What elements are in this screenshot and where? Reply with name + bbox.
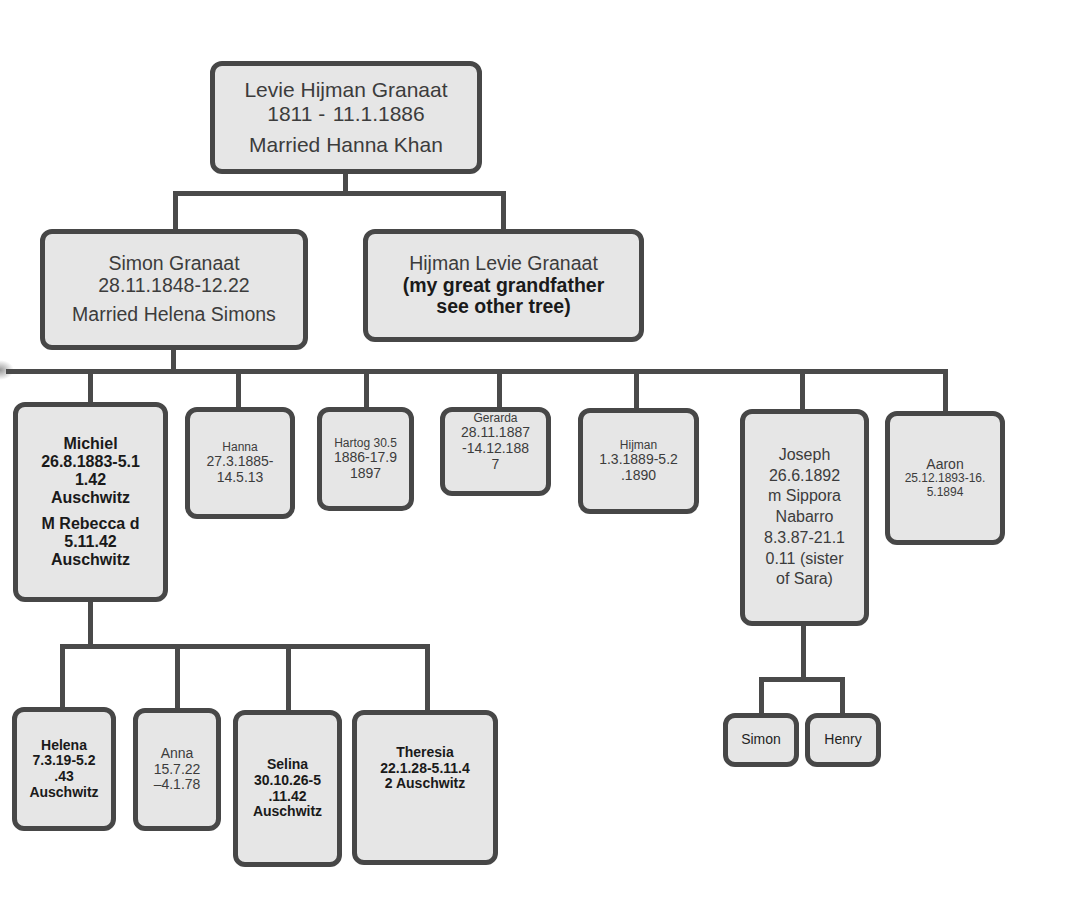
person-box-anna: Anna 15.7.22 –4.1.78 xyxy=(133,708,221,831)
person-box-henry: Henry xyxy=(805,713,881,767)
connector xyxy=(88,600,93,648)
person-name: Gerarda xyxy=(473,412,517,425)
person-box-joseph: Joseph 26.6.1892 m Sippora Nabarro 8.3.8… xyxy=(740,409,869,626)
connector xyxy=(943,369,948,415)
person-box-hartog: Hartog 30.5 1886-17.9 1897 xyxy=(317,407,414,511)
person-name: Hijman xyxy=(620,439,657,452)
person-dates: 1811 - 11.1.1886 xyxy=(267,102,424,126)
connector xyxy=(6,369,948,374)
person-box-simon-granaat: Simon Granaat 28.11.1848-12.22 Married H… xyxy=(40,229,308,350)
family-tree-diagram: Levie Hijman Granaat 1811 - 11.1.1886 Ma… xyxy=(0,0,1067,912)
person-line: Auschwitz xyxy=(29,785,98,801)
person-line: 5.1894 xyxy=(927,486,964,499)
person-name: Hijman Levie Granaat xyxy=(409,253,598,275)
person-line: Auschwitz xyxy=(51,489,130,507)
person-line: .11.42 xyxy=(268,789,306,805)
person-name: Joseph xyxy=(779,445,831,466)
person-line: 0.11 (sister xyxy=(766,549,844,570)
connector xyxy=(840,677,845,717)
connector xyxy=(497,369,502,411)
connector xyxy=(759,677,764,717)
person-dates: 28.11.1848-12.22 xyxy=(98,275,249,297)
person-spouse: Married Helena Simons xyxy=(72,304,276,326)
person-name: Helena xyxy=(41,738,87,754)
connector xyxy=(364,369,369,411)
person-line: 27.3.1885- xyxy=(207,454,274,470)
connector xyxy=(634,369,639,412)
person-spouse: Married Hanna Khan xyxy=(249,133,443,157)
person-box-hijman: Hijman 1.3.1889-5.2 .1890 xyxy=(578,408,699,514)
connector xyxy=(425,644,430,714)
person-line: Auschwitz xyxy=(253,804,322,820)
connector xyxy=(173,191,506,196)
person-spouse: Auschwitz xyxy=(51,551,130,569)
person-line: 14.5.13 xyxy=(217,470,264,486)
person-line: m Sippora xyxy=(768,486,841,507)
person-box-helena: Helena 7.3.19-5.2 .43 Auschwitz xyxy=(12,707,116,831)
person-box-theresia: Theresia 22.1.28-5.11.4 2 Auschwitz xyxy=(352,710,498,865)
person-line: -14.12.188 xyxy=(462,441,529,457)
person-line: 8.3.87-21.1 xyxy=(764,528,845,549)
connector xyxy=(501,191,506,233)
person-spouse: M Rebecca d xyxy=(42,515,140,533)
person-name: Henry xyxy=(824,732,861,748)
person-name: Simon Granaat xyxy=(108,253,239,275)
connector xyxy=(175,644,180,712)
person-box-aaron: Aaron 25.12.1893-16. 5.1894 xyxy=(885,411,1005,545)
person-note: see other tree) xyxy=(436,296,570,318)
person-line: 1.3.1889-5.2 xyxy=(599,452,678,468)
person-line: 15.7.22 xyxy=(154,762,201,778)
person-box-gerarda: Gerarda 28.11.1887 -14.12.188 7 xyxy=(440,407,551,496)
connector xyxy=(759,677,845,682)
person-box-levie-hijman-granaat: Levie Hijman Granaat 1811 - 11.1.1886 Ma… xyxy=(210,61,482,174)
person-line: Nabarro xyxy=(776,507,834,528)
person-line: 1.42 xyxy=(75,471,106,489)
person-spouse: 5.11.42 xyxy=(64,533,117,551)
person-name: Theresia xyxy=(396,745,454,761)
person-box-hijman-levie-granaat: Hijman Levie Granaat (my great grandfath… xyxy=(363,229,644,342)
person-box-hanna: Hanna 27.3.1885- 14.5.13 xyxy=(185,407,295,519)
person-line: 26.8.1883-5.1 xyxy=(41,453,140,471)
person-name: Aaron xyxy=(926,457,963,473)
person-name: Hanna xyxy=(222,441,257,454)
person-line: 1897 xyxy=(350,466,381,482)
person-line: 26.6.1892 xyxy=(769,466,840,487)
connector xyxy=(60,644,430,649)
person-line: 2 Auschwitz xyxy=(385,776,465,792)
person-line: 30.10.26-5 xyxy=(254,773,321,789)
person-box-michiel: Michiel 26.8.1883-5.1 1.42 Auschwitz M R… xyxy=(13,402,168,602)
person-line: 1886-17.9 xyxy=(334,450,397,466)
person-line: .43 xyxy=(54,769,73,785)
person-line: Michiel xyxy=(63,435,117,453)
person-line: 7.3.19-5.2 xyxy=(32,753,95,769)
person-box-simon: Simon xyxy=(723,713,799,767)
person-line: .1890 xyxy=(621,468,656,484)
connector xyxy=(60,644,65,710)
person-box-selina: Selina 30.10.26-5 .11.42 Auschwitz xyxy=(233,710,342,867)
person-name: Selina xyxy=(267,757,308,773)
person-line: 28.11.1887 xyxy=(461,425,530,441)
person-line: 25.12.1893-16. xyxy=(905,472,986,485)
person-line: –4.1.78 xyxy=(154,777,201,793)
person-note: (my great grandfather xyxy=(403,275,605,297)
connector xyxy=(88,369,93,405)
person-name: Levie Hijman Granaat xyxy=(244,78,447,102)
person-line: 22.1.28-5.11.4 xyxy=(380,761,470,777)
connector xyxy=(236,369,241,412)
connector xyxy=(801,622,806,680)
person-line: Hartog 30.5 xyxy=(334,437,397,450)
person-name: Anna xyxy=(161,746,194,762)
person-line: 7 xyxy=(492,457,500,473)
person-line: of Sara) xyxy=(776,569,833,590)
person-name: Simon xyxy=(741,732,781,748)
connector xyxy=(173,191,178,233)
connector xyxy=(286,644,291,714)
connector xyxy=(800,369,805,412)
